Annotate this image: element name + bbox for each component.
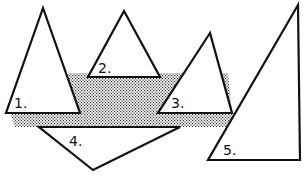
triangle-4 (39, 127, 180, 170)
triangle-4-label: 4. (69, 133, 82, 149)
triangle-diagram: 1.2.3.4.5. (0, 0, 306, 177)
triangle-1-label: 1. (14, 95, 27, 111)
triangle-3-label: 3. (171, 95, 184, 111)
triangle-2-label: 2. (98, 60, 111, 76)
diagram-canvas: 1.2.3.4.5. (0, 0, 306, 177)
triangle-5-label: 5. (223, 142, 236, 158)
